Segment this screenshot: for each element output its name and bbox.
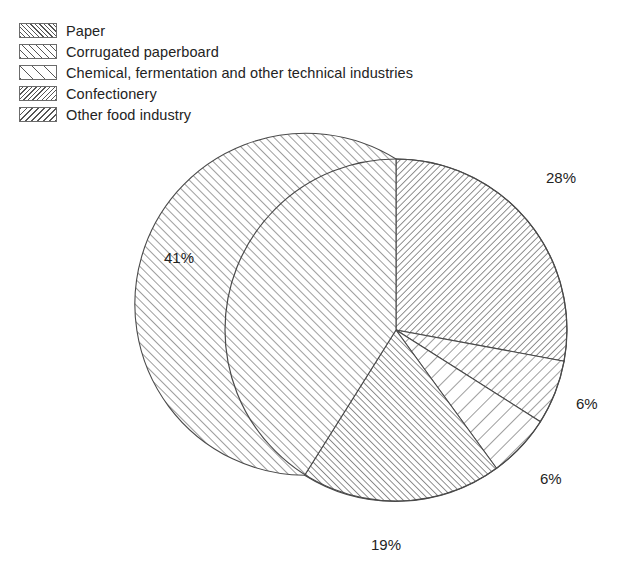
pie-label-corrugated-paperboard: 6% bbox=[576, 395, 598, 412]
pie-slice-paper bbox=[396, 159, 567, 361]
pie-label-paper: 28% bbox=[546, 169, 576, 186]
pie-label-chemical-fermentation: 6% bbox=[540, 470, 562, 487]
pie-label-confectionery: 19% bbox=[371, 536, 401, 553]
pie-label-other-food-industry: 41% bbox=[164, 249, 194, 266]
pie-chart: 28% 6% 6% 19% 41% bbox=[0, 0, 628, 577]
pie-chart-svg bbox=[0, 0, 628, 577]
